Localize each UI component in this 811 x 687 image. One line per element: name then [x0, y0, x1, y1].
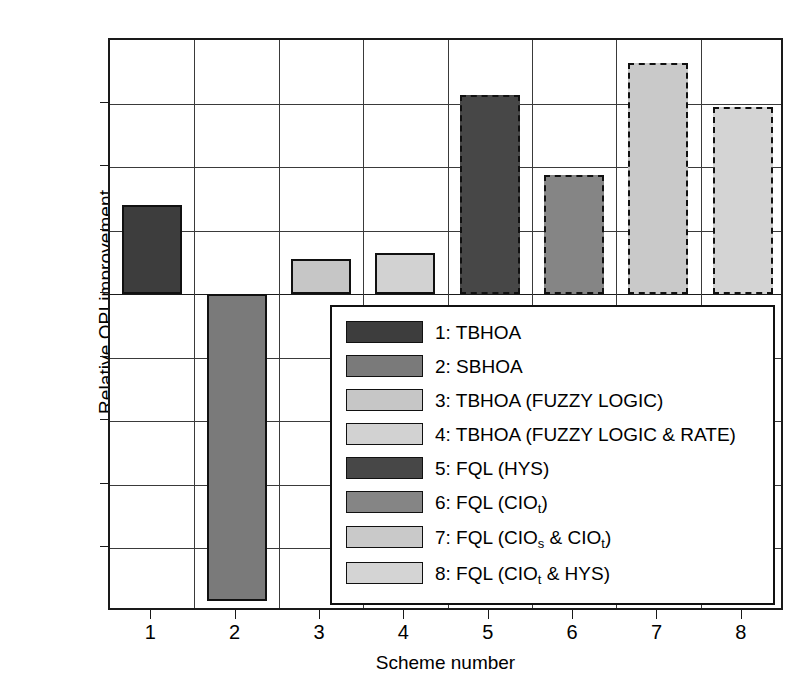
bar-scheme-6	[544, 175, 604, 294]
legend-swatch-7	[346, 526, 423, 548]
x-tick-mark	[150, 610, 151, 619]
legend-label-7: 7: FQL (CIOs & CIOt)	[435, 528, 611, 547]
y-tick-mark	[100, 356, 108, 357]
legend-item-8: 8: FQL (CIOt & HYS)	[346, 555, 773, 591]
x-tick-label: 7	[636, 622, 676, 642]
y-tick-mark	[100, 483, 108, 484]
bar-scheme-4	[375, 253, 435, 294]
y-tick-mark	[100, 292, 108, 293]
bar-scheme-8	[713, 107, 773, 294]
legend-swatch-4	[346, 423, 423, 445]
x-tick-label: 3	[299, 622, 339, 642]
legend-label-3: 3: TBHOA (FUZZY LOGIC)	[435, 391, 663, 410]
gridline-vertical	[279, 40, 280, 608]
y-tick-mark	[100, 165, 108, 166]
legend-label-8: 8: FQL (CIOt & HYS)	[435, 564, 610, 583]
y-tick-mark	[100, 419, 108, 420]
legend-item-7: 7: FQL (CIOs & CIOt)	[346, 519, 773, 555]
legend-item-2: 2: SBHOA	[346, 349, 773, 383]
x-tick-mark	[235, 610, 236, 619]
legend-item-3: 3: TBHOA (FUZZY LOGIC)	[346, 383, 773, 417]
x-tick-label: 1	[130, 622, 170, 642]
y-tick-mark	[100, 102, 108, 103]
y-tick-mark	[100, 546, 108, 547]
bar-scheme-5	[460, 95, 520, 295]
chart-figure: Relative OPI improvement Scheme number 0…	[0, 0, 811, 687]
x-tick-label: 5	[468, 622, 508, 642]
legend-box: 1: TBHOA2: SBHOA3: TBHOA (FUZZY LOGIC)4:…	[330, 305, 775, 605]
bar-scheme-2	[207, 294, 267, 600]
bar-scheme-1	[122, 205, 182, 295]
x-tick-mark	[488, 610, 489, 619]
legend-item-5: 5: FQL (HYS)	[346, 451, 773, 485]
legend-swatch-6	[346, 491, 423, 513]
legend-item-1: 1: TBHOA	[346, 315, 773, 349]
legend-swatch-3	[346, 389, 423, 411]
x-tick-mark	[741, 610, 742, 619]
legend-item-4: 4: TBHOA (FUZZY LOGIC & RATE)	[346, 417, 773, 451]
x-tick-label: 6	[552, 622, 592, 642]
legend-swatch-5	[346, 457, 423, 479]
x-tick-label: 8	[721, 622, 761, 642]
legend-label-2: 2: SBHOA	[435, 357, 523, 376]
x-tick-mark	[403, 610, 404, 619]
bar-scheme-7	[628, 63, 688, 294]
x-tick-label: 2	[215, 622, 255, 642]
legend-item-6: 6: FQL (CIOt)	[346, 485, 773, 519]
x-tick-mark	[319, 610, 320, 619]
legend-label-6: 6: FQL (CIOt)	[435, 493, 548, 512]
bar-scheme-3	[291, 259, 351, 294]
legend-label-1: 1: TBHOA	[435, 323, 521, 342]
legend-label-5: 5: FQL (HYS)	[435, 459, 549, 478]
x-axis-title: Scheme number	[108, 652, 783, 674]
x-tick-mark	[656, 610, 657, 619]
legend-swatch-2	[346, 355, 423, 377]
x-tick-mark	[572, 610, 573, 619]
legend-swatch-8	[346, 562, 423, 584]
x-tick-label: 4	[383, 622, 423, 642]
legend-label-4: 4: TBHOA (FUZZY LOGIC & RATE)	[435, 425, 736, 444]
gridline-vertical	[194, 40, 195, 608]
legend-swatch-1	[346, 321, 423, 343]
y-tick-mark	[100, 229, 108, 230]
